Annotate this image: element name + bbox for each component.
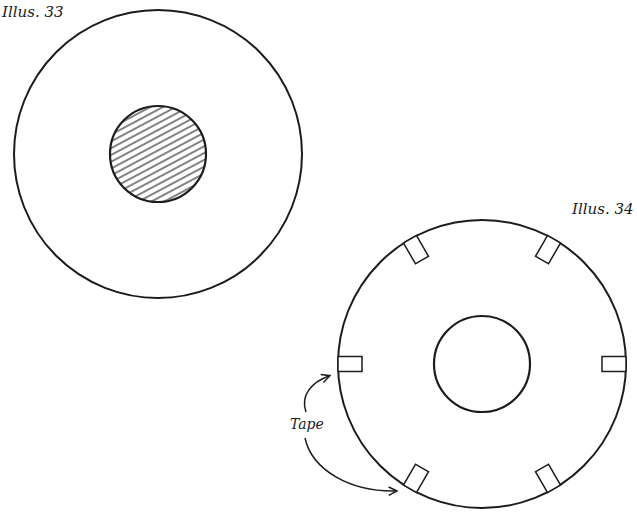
tape-tabs	[338, 236, 626, 493]
tape-tab	[602, 357, 626, 372]
illus-33-hatched-center	[110, 106, 206, 202]
tape-tab	[338, 357, 362, 372]
tape-arrow-down	[305, 438, 396, 491]
illus-34-inner-circle	[434, 316, 530, 412]
illus-34-figure	[304, 220, 626, 508]
illus-34-outer-circle	[338, 220, 626, 508]
tape-arrow-up	[304, 376, 329, 412]
diagram-canvas	[0, 0, 637, 519]
illus-33-figure	[14, 10, 302, 298]
